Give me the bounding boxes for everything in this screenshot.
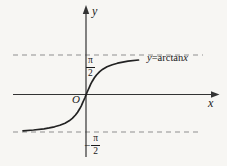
lower-asymptote-denominator: 2	[93, 146, 98, 157]
upper-asymptote-denominator: 2	[88, 68, 93, 79]
x-axis-label: x	[208, 97, 213, 109]
arctan-graph-figure: y x O π 2 − π 2 y=arctanx	[0, 0, 227, 166]
curve-equation-label: y=arctanx	[147, 53, 188, 64]
upper-asymptote-label: π 2	[86, 56, 95, 78]
plot-canvas	[0, 0, 227, 166]
equation-arg: x	[183, 52, 188, 63]
y-axis-arrow-icon	[83, 5, 89, 14]
lower-asymptote-label: − π 2	[84, 134, 100, 156]
arctan-curve	[23, 60, 139, 131]
origin-label: O	[72, 94, 80, 105]
minus-sign: −	[84, 140, 90, 151]
y-axis-label: y	[92, 5, 97, 17]
lower-asymptote-numerator: π	[91, 134, 100, 146]
equation-function: arctan	[158, 52, 184, 63]
upper-asymptote-numerator: π	[86, 56, 95, 68]
